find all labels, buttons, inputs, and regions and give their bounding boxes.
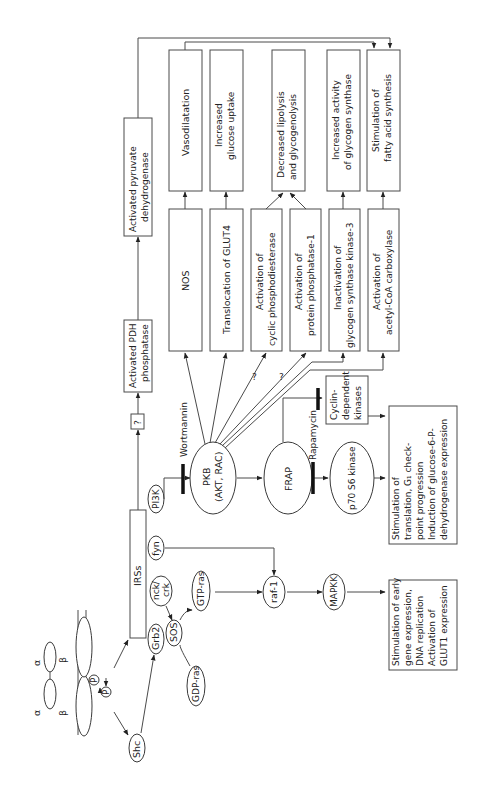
vasodilatation-box: Vasodilatation (169, 50, 202, 191)
svg-text:protein phosphatase-1: protein phosphatase-1 (306, 234, 316, 336)
insulin-signaling-diagram: α α β β P P Shc IRSs Grb2 nck/ crk fyn P… (0, 0, 486, 798)
svg-text:nck/: nck/ (151, 580, 161, 600)
svg-text:Activated PDH: Activated PDH (128, 323, 138, 388)
svg-text:raf-1: raf-1 (268, 581, 279, 603)
svg-text:dependent: dependent (341, 371, 351, 420)
svg-text:gene expression,: gene expression, (403, 589, 413, 666)
beta-subunit-right (76, 617, 92, 677)
svg-text:Activation of: Activation of (294, 253, 304, 310)
wortmannin-label: Wortmannin (179, 402, 189, 457)
svg-text:PI3K: PI3K (151, 488, 161, 509)
beta-label-right: β (57, 657, 68, 663)
svg-text:glucose uptake: glucose uptake (226, 91, 236, 160)
svg-text:SOS: SOS (168, 622, 179, 642)
beta-subunit-left (76, 676, 92, 736)
svg-text:Stimulation of early: Stimulation of early (391, 577, 401, 666)
shc-label: Shc (131, 741, 142, 758)
svg-text:phosphatase: phosphatase (140, 324, 150, 382)
svg-text:kinases: kinases (353, 386, 363, 420)
svg-text:dehydrogenase: dehydrogenase (140, 152, 150, 222)
svg-text:and glycogenolysis: and glycogenolysis (288, 94, 298, 180)
svg-text:PKB: PKB (201, 468, 212, 486)
svg-text:Translocation of GLUT4: Translocation of GLUT4 (221, 225, 232, 335)
svg-text:FRAP: FRAP (283, 467, 294, 491)
svg-text:translation, G₁ check-: translation, G₁ check- (403, 443, 413, 540)
svg-text:GLUT1 expression: GLUT1 expression (439, 585, 449, 666)
glut4-translocation-box: Translocation of GLUT4 (210, 209, 243, 351)
svg-text:cyclic phosphodiesterase: cyclic phosphodiesterase (267, 232, 277, 346)
svg-text:Cyclin-: Cyclin- (329, 389, 339, 420)
svg-text:Activation of: Activation of (255, 253, 265, 310)
cyclic-phosphodiesterase-box: Activation of cyclic phosphodiesterase (251, 209, 282, 351)
early-gene-expression-box: Stimulation of early gene expression, DN… (389, 577, 457, 670)
svg-text:GDP-ras: GDP-ras (191, 665, 201, 702)
svg-text:MAPKK: MAPKK (329, 575, 339, 607)
svg-text:Stimulation of: Stimulation of (391, 476, 401, 540)
svg-text:dehydrogenase expression: dehydrogenase expression (439, 419, 449, 540)
beta-label-left: β (57, 710, 68, 716)
alpha-subunit-left (44, 679, 56, 709)
svg-text:Activated pyruvate: Activated pyruvate (128, 146, 138, 232)
gsk3-inactivation-box: Inactivation of glycogen synthase kinase… (329, 209, 360, 351)
protein-phosphatase-1-box: Activation of protein phosphatase-1 (290, 209, 321, 351)
alpha-label-left: α (31, 710, 42, 716)
pdh-phosphatase-box: Activated PDH phosphatase (124, 320, 152, 392)
svg-text:Increased activity: Increased activity (331, 79, 341, 160)
svg-text:Increased: Increased (214, 103, 224, 147)
rapamycin-label: Rapamycin (308, 410, 318, 460)
svg-text:crk: crk (161, 582, 171, 597)
svg-text:acetyl-CoA carboxylase: acetyl-CoA carboxylase (384, 229, 394, 335)
svg-text:NOS: NOS (180, 270, 191, 291)
svg-text:Activation of: Activation of (427, 609, 437, 666)
svg-text:Inactivation of: Inactivation of (333, 245, 343, 310)
decreased-lipolysis-box: Decreased lipolysis and glycogenolysis (272, 50, 305, 191)
glycogen-synthase-box: Increased activity of glycogen synthase (327, 50, 360, 191)
diagram-svg: α α β β P P Shc IRSs Grb2 nck/ crk fyn P… (0, 0, 486, 798)
svg-text:point progression: point progression (415, 462, 425, 540)
svg-text:Vasodilatation: Vasodilatation (180, 89, 191, 156)
svg-text:DNA replication: DNA replication (415, 596, 425, 666)
irss-label: IRSs (132, 566, 143, 586)
nos-box: NOS (169, 209, 202, 351)
alpha-label-right: α (31, 660, 42, 666)
alpha-subunit-right (44, 642, 56, 672)
svg-text:fyn: fyn (150, 541, 161, 556)
svg-text:GTP-ras: GTP-ras (196, 571, 206, 606)
translation-stimulation-box: Stimulation of translation, G₁ check- po… (389, 406, 457, 544)
svg-text:?: ? (133, 420, 143, 425)
question-mark-pp1: ? (279, 372, 284, 382)
svg-text:glycogen synthase kinase-3: glycogen synthase kinase-3 (345, 223, 355, 349)
svg-text:P: P (101, 689, 111, 695)
insulin-receptor: α α β β P P (31, 610, 128, 736)
svg-text:Activation of: Activation of (372, 253, 382, 310)
svg-text:p70 S6 kinase: p70 S6 kinase (347, 446, 357, 510)
svg-text:Induction of glucose-6-P-: Induction of glucose-6-P- (427, 428, 437, 540)
svg-text:Decreased lipolysis: Decreased lipolysis (276, 91, 286, 178)
svg-text:(AKT, RAC): (AKT, RAC) (213, 452, 224, 502)
question-mark-pde: ? (252, 372, 257, 382)
svg-text:Stimulation of: Stimulation of (371, 88, 381, 152)
svg-text:P: P (89, 677, 99, 683)
glucose-uptake-box: Increased glucose uptake (210, 50, 243, 191)
fatty-acid-synthesis-box: Stimulation of fatty acid synthesis (367, 50, 400, 191)
svg-text:fatty acid synthesis: fatty acid synthesis (383, 74, 393, 162)
svg-text:Grb2: Grb2 (150, 627, 161, 650)
svg-text:of glycogen synthase: of glycogen synthase (343, 73, 353, 170)
cyclin-dependent-kinases-box: Cyclin- dependent kinases (326, 371, 368, 424)
acetyl-coa-carboxylase-box: Activation of acetyl-CoA carboxylase (368, 209, 399, 351)
pyruvate-dehydrogenase-box: Activated pyruvate dehydrogenase (124, 118, 152, 236)
